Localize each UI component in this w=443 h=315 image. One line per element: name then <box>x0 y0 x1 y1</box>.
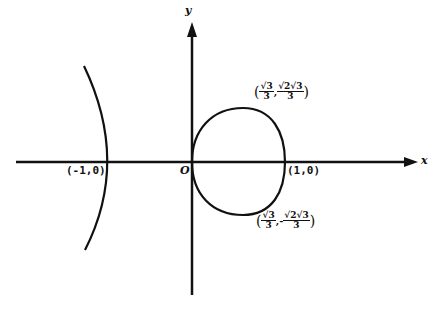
left-vertex-label: (-1,0) <box>66 164 106 177</box>
right-vertex-label: (1,0) <box>287 164 320 177</box>
origin-label: O <box>180 164 190 177</box>
y-axis-arrow-icon <box>187 22 197 37</box>
upper-point-label: ( √3 3 , √2√3 3 ) <box>254 82 309 101</box>
diagram-canvas <box>0 0 443 315</box>
lower-point-label: ( √3 3 , - √2√3 3 ) <box>256 211 315 230</box>
lower-y-fraction: √2√3 3 <box>283 211 309 230</box>
left-branch-curve <box>84 66 107 250</box>
x-axis-arrow-icon <box>404 157 418 167</box>
y-axis-label: y <box>185 4 191 17</box>
upper-x-fraction: √3 3 <box>259 82 273 101</box>
upper-y-fraction: √2√3 3 <box>277 82 303 101</box>
lower-x-fraction: √3 3 <box>261 211 275 230</box>
x-axis-label: x <box>421 154 428 167</box>
